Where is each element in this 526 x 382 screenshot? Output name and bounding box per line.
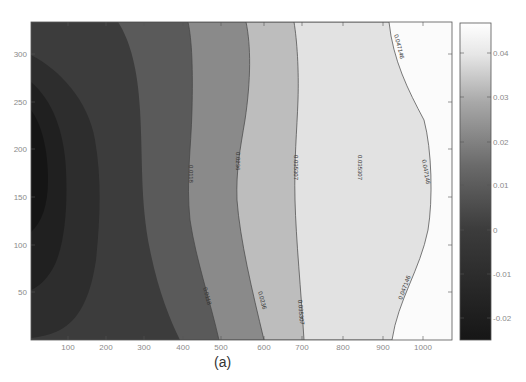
y-tick-label: 200: [14, 145, 28, 154]
colorbar-tick-label: 0.01: [493, 181, 509, 190]
colorbar-tick-label: 0.04: [493, 49, 509, 58]
x-tick-label: 100: [61, 343, 75, 352]
contour-label: 0.035307: [293, 155, 299, 181]
x-tick-label: 200: [99, 343, 113, 352]
colorbar: 0.04 0.03 0.02 0.01 0 -0.01 -0.02: [460, 23, 512, 340]
x-tick-label: 900: [376, 343, 390, 352]
x-tick-label: 400: [176, 343, 190, 352]
x-tick-label: 800: [336, 343, 350, 352]
contour-label: 0.0118: [188, 165, 194, 184]
colorbar-tick-label: 0: [493, 226, 498, 235]
colorbar-tick-label: 0.02: [493, 138, 509, 147]
y-tick-label: 50: [18, 288, 27, 297]
colorbar-tick-label: -0.02: [493, 314, 512, 323]
x-tick-label: 1000: [414, 343, 432, 352]
y-tick-label: 250: [14, 98, 28, 107]
colorbar-gradient: [460, 23, 491, 340]
y-tick-label: 150: [14, 193, 28, 202]
y-tick-label: 300: [14, 50, 28, 59]
colorbar-tick-label: -0.01: [493, 270, 512, 279]
y-tick-label: 100: [14, 241, 28, 250]
plot-area: [31, 22, 452, 340]
x-tick-label: 700: [295, 343, 309, 352]
x-tick-label: 500: [214, 343, 228, 352]
contour-figure: 0.0118 0.0236 0.035307 0.035307 0.047146…: [0, 0, 526, 382]
x-tick-label: 300: [137, 343, 151, 352]
colorbar-tick-label: 0.03: [493, 93, 509, 102]
contour-label: 0.0236: [235, 152, 241, 171]
x-tick-label: 600: [257, 343, 271, 352]
contour-label: 0.035307: [357, 155, 363, 181]
figure-caption: (a): [214, 354, 231, 370]
